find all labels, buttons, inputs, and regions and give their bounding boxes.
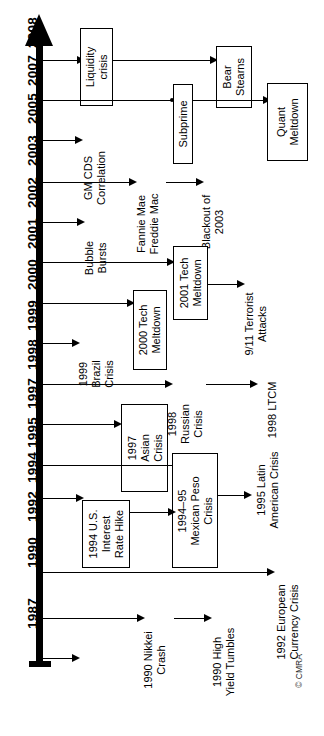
connector-fannie-to-blackout xyxy=(166,182,199,183)
liquidity-crisis-box: Liquiditycrisis xyxy=(80,28,113,106)
connector-2008 xyxy=(43,60,79,61)
connector-1992 xyxy=(43,572,269,573)
asian-crisis-1997-box: 1997AsianCrisis xyxy=(121,404,168,492)
quant-meltdown-label: QuantMeltdown xyxy=(275,98,301,145)
connector-2003 xyxy=(43,182,131,183)
arrowhead-1987 xyxy=(72,654,80,662)
connector-1994 xyxy=(43,498,78,499)
arrowhead-1998 xyxy=(165,380,173,388)
connector-1987 xyxy=(43,658,74,659)
arrowhead-latam xyxy=(244,491,252,499)
bear-stearns-label: BearStearns xyxy=(221,58,247,96)
arrowhead-blackout xyxy=(196,178,204,186)
connector-2001-to-911 xyxy=(208,284,239,285)
tech-meltdown-2000-label: 2000 TechMeltdown xyxy=(137,305,163,356)
year-label-1987: 1987 xyxy=(25,582,40,646)
tech-meltdown-2001-label: 2001 TechMeltdown xyxy=(178,258,204,309)
copyright-text: © CMRA xyxy=(294,654,304,688)
connector-1999 xyxy=(43,343,74,344)
arrowhead-2003 xyxy=(129,178,137,186)
connector-russian-to-ltcm xyxy=(206,384,252,385)
connector-1997 xyxy=(43,424,116,425)
copyright-credit: © CMRA xyxy=(292,636,306,706)
connector-2007 xyxy=(43,100,174,101)
arrowhead-2002 xyxy=(77,218,85,226)
connector-2001 xyxy=(43,262,171,263)
arrowhead-911 xyxy=(237,280,245,288)
us-interest-rate-hike-label: 1994 U.S.InterestRate Hike xyxy=(87,510,126,559)
arrowhead-1999 xyxy=(72,339,80,347)
subprime-box: Subprime xyxy=(173,84,193,164)
timeline-axis-base xyxy=(29,661,51,667)
us-interest-rate-hike-box: 1994 U.S.InterestRate Hike xyxy=(82,500,130,568)
liquidity-crisis-label: Liquiditycrisis xyxy=(84,47,110,87)
quant-meltdown-box: QuantMeltdown xyxy=(267,83,308,161)
mexican-peso-crisis-box: 1994–95Mexican PesoCrisis xyxy=(172,453,218,568)
connector-subprime-to-quant xyxy=(193,100,267,101)
year-label-1990: 1990 xyxy=(25,521,40,585)
connector-2000 xyxy=(43,303,129,304)
tech-meltdown-2000-box: 2000 TechMeltdown xyxy=(133,290,167,370)
blackout-2003-label: Blackout of2003 xyxy=(200,195,226,249)
high-yield-tumbles-label: 1990 HighYield Tumbles xyxy=(211,628,237,697)
connector-1995 xyxy=(43,465,172,466)
mexican-peso-crisis-label: 1994–95Mexican PesoCrisis xyxy=(176,476,215,545)
russian-crisis-1998-label: 1998RussianCrisis xyxy=(166,404,205,444)
connector-peso-to-latam xyxy=(218,495,246,496)
arrowhead-1992 xyxy=(267,568,275,576)
bear-stearns-box: BearStearns xyxy=(216,46,252,108)
asian-crisis-1997-label: 1997AsianCrisis xyxy=(125,434,164,462)
ltcm-1998-label: 1998 LTCM xyxy=(266,382,279,439)
gm-cds-correlation-label: GM CDSCorrelation xyxy=(82,151,108,205)
timeline-diagram: 2008 2007 2005 2003 2002 2001 2000 1999 … xyxy=(0,0,324,736)
arrowhead-peso xyxy=(168,508,176,516)
fannie-freddie-label: Fannie MaeFreddie Mac xyxy=(135,193,161,254)
connector-1990 xyxy=(43,618,139,619)
arrowhead-ltcm xyxy=(250,380,258,388)
subprime-label: Subprime xyxy=(177,100,190,147)
arrowhead-1990 xyxy=(137,614,145,622)
tech-meltdown-2001-box: 2001 TechMeltdown xyxy=(173,246,208,320)
connector-2002 xyxy=(43,222,79,223)
arrowhead-2005 xyxy=(75,136,83,144)
terrorist-attacks-label: 9/11 TerroristAttacks xyxy=(243,292,269,355)
nikkei-crash-1990-label: 1990 NikkeiCrash xyxy=(142,631,168,688)
arrowhead-high-yield xyxy=(204,614,212,622)
connector-rate-hike-to-peso xyxy=(130,512,170,513)
bubble-bursts-label: BubbleBursts xyxy=(83,241,109,275)
connector-1998 xyxy=(43,384,167,385)
connector-nikkei-to-highyield xyxy=(174,618,206,619)
connector-2005 xyxy=(43,140,77,141)
latin-american-crisis-label: 1995 LatinAmerican Crisis xyxy=(255,451,281,528)
connector-liquidity-to-bear xyxy=(113,60,214,61)
